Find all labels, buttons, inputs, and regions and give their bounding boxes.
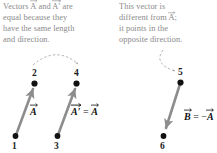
label-b-group: B [184, 111, 191, 122]
point-label-2: 2 [32, 69, 37, 79]
point-2-dot [31, 80, 37, 86]
point-5-dot [177, 79, 183, 85]
label-vector-a-group: A [30, 106, 37, 117]
point-6-dot [161, 133, 167, 139]
point-label-5: 5 [178, 68, 183, 78]
point-label-4: 4 [74, 69, 79, 79]
dashed-pointer-arrow-right [160, 50, 175, 71]
label-a-letter: A [91, 106, 98, 117]
vector-b-arrow [166, 84, 180, 128]
label-a-prime-letter: A′ [71, 106, 80, 117]
point-1-dot [13, 133, 19, 139]
label-vector-b-equals-negative-a: B = −A [184, 112, 214, 122]
label-a-prime-group: A′ [71, 106, 80, 117]
point-label-3: 3 [54, 142, 59, 152]
label-equals-minus-sign: = − [191, 111, 207, 122]
point-3-dot [55, 133, 61, 139]
label-a-group: A [91, 106, 98, 117]
point-4-dot [73, 80, 79, 86]
label-neg-a-letter: A [207, 111, 214, 122]
point-label-6: 6 [160, 142, 165, 152]
label-equals-sign: = [80, 106, 91, 117]
point-label-1: 1 [12, 142, 17, 152]
label-vector-a-prime-equals-a: A′ = A [71, 107, 98, 117]
label-neg-a-group: A [207, 111, 214, 122]
label-vector-a: A [30, 107, 37, 117]
vector-equality-figure: Vectors A and A′ are equal because they … [0, 0, 217, 153]
label-b-letter: B [184, 111, 191, 122]
dashed-translation-arrow-left [33, 55, 78, 65]
label-vector-a-letter: A [30, 106, 37, 117]
